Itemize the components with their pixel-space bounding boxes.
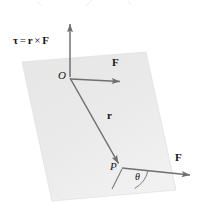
point-label-P: P — [110, 161, 117, 172]
equation-F-symbol: F — [42, 34, 49, 46]
position-vector-label-r: r — [107, 110, 112, 121]
figure-canvas — [0, 0, 211, 217]
torque-equation: τ=r×F — [13, 35, 49, 46]
torque-cross-product-figure: τ=r×F O P F F r θ — [0, 0, 211, 217]
plane-parallelogram — [22, 52, 176, 201]
origin-label-O: O — [58, 70, 66, 81]
equation-equals-sign: = — [18, 34, 27, 46]
scan-artifact-marks — [38, 0, 131, 6]
equation-cross-sign: × — [33, 34, 42, 46]
force-label-bottom: F — [175, 152, 182, 163]
force-label-top: F — [112, 57, 119, 68]
angle-label-theta: θ — [135, 172, 140, 182]
